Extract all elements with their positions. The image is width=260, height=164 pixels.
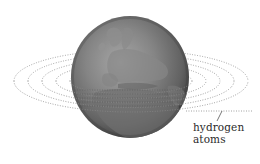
earth-hydrogen-diagram: hydrogen atoms	[0, 0, 260, 164]
leader-line	[217, 111, 222, 121]
globe-earth	[71, 16, 189, 140]
hydrogen-atoms-label: hydrogen atoms	[193, 121, 244, 145]
label-line-1: hydrogen	[193, 121, 244, 133]
label-line-2: atoms	[193, 133, 244, 145]
